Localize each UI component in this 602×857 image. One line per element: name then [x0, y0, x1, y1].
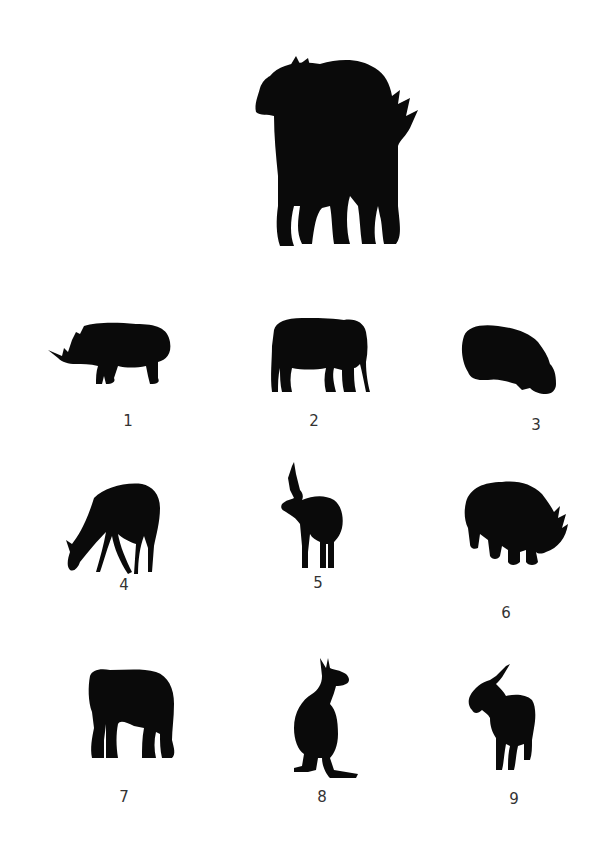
option-3[interactable]: 3 — [458, 322, 602, 472]
composite-silhouette-figure — [250, 56, 420, 250]
option-label: 6 — [486, 604, 526, 622]
option-5[interactable]: 5 — [278, 462, 438, 612]
option-1[interactable]: 1 — [46, 318, 206, 468]
option-4[interactable]: 4 — [64, 480, 224, 630]
composite-silhouette-icon — [250, 56, 420, 250]
kangaroo-icon — [290, 654, 362, 780]
rhino-side-icon — [46, 318, 176, 388]
goat-icon — [466, 664, 540, 776]
option-label: 2 — [294, 412, 334, 430]
elephant-side-icon — [268, 316, 378, 398]
option-label: 4 — [104, 576, 144, 594]
option-6[interactable]: 6 — [462, 478, 602, 628]
option-label: 5 — [298, 574, 338, 592]
elephant-front-icon — [86, 668, 178, 764]
option-label: 9 — [494, 790, 534, 808]
option-8[interactable]: 8 — [290, 654, 450, 804]
option-label: 1 — [108, 412, 148, 430]
option-7[interactable]: 7 — [86, 668, 246, 818]
option-label: 7 — [104, 788, 144, 806]
deer-grazing-icon — [64, 480, 164, 580]
option-9[interactable]: 9 — [466, 664, 602, 814]
option-label: 8 — [302, 788, 342, 806]
option-2[interactable]: 2 — [268, 316, 428, 466]
hippo-grazing-icon — [458, 322, 558, 396]
rhino-front-icon — [462, 478, 570, 568]
option-label: 3 — [516, 416, 556, 434]
antelope-icon — [278, 462, 348, 574]
